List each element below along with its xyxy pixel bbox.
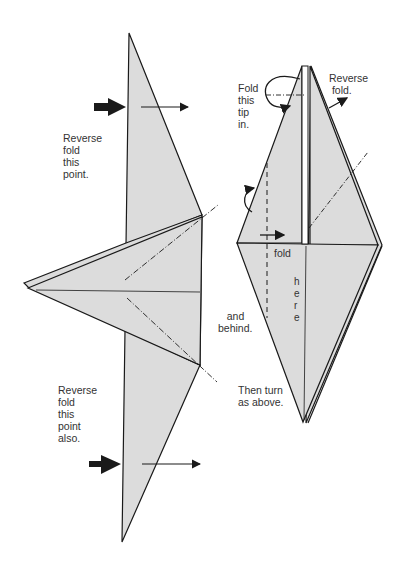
fold-label: fold xyxy=(274,247,291,259)
behind-label: and behind. xyxy=(218,310,252,334)
bottom-point-flap xyxy=(122,330,200,542)
push-arrow-bottom-icon xyxy=(89,455,121,474)
push-arrow-top-icon xyxy=(94,98,126,116)
top-instruction: Reverse fold this point. xyxy=(63,132,102,180)
bottom-instruction: Reverse fold this point also. xyxy=(58,384,97,444)
turn-instruction: Then turn as above. xyxy=(238,384,284,408)
reverse-fold-arrow-icon xyxy=(329,98,347,108)
right-figure xyxy=(237,66,382,423)
here-label: h e r e xyxy=(294,276,300,324)
reverse-fold-label: Reverse fold. xyxy=(329,72,368,96)
top-point-flap xyxy=(126,33,202,245)
tip-instruction: Fold this tip in. xyxy=(238,82,258,130)
